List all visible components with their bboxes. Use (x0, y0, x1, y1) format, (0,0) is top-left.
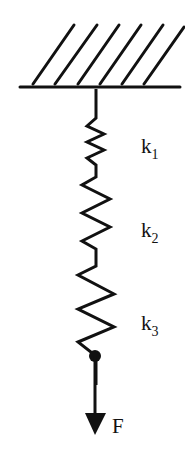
spring-diagram: k1 k2 k3 F (0, 0, 185, 453)
force-label: F (112, 414, 124, 438)
spring-k1 (87, 89, 104, 172)
fixed-support (20, 25, 184, 87)
force-arrow-icon (85, 356, 106, 435)
spring-chain (78, 89, 114, 385)
spring-k2 (82, 172, 110, 262)
spring-label-k1: k1 (141, 134, 159, 162)
spring-label-k2: k2 (141, 218, 159, 246)
spring-label-k3: k3 (141, 311, 159, 339)
